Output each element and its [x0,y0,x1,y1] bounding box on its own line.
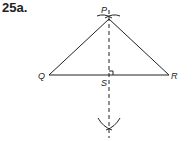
label-p: P [101,5,107,15]
triangle-construction-diagram: P Q R S [0,0,195,141]
label-s: S [101,78,107,88]
label-r: R [171,71,178,81]
label-q: Q [38,71,45,81]
segment-pq [49,19,109,75]
right-angle-marker [109,71,113,75]
segment-pr [109,19,169,75]
